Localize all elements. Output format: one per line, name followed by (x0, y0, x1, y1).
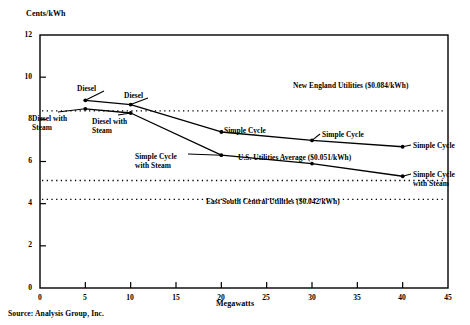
y-tick-label-0: 0 (12, 283, 32, 292)
point-label-sc-steam-40-l2: with Steam (413, 179, 449, 188)
annotation-leader (221, 130, 222, 132)
point-label-simple-cycle-40: Simple Cycle (413, 141, 455, 150)
point-label-diesel-steam-5-l2: Steam (32, 123, 52, 132)
reference-label-new-england: New England Utilities ($0.084/kWh) (293, 81, 408, 90)
point-label-simple-cycle-30: Simple Cycle (322, 130, 364, 139)
point-label-diesel-steam-5-l1: Diesel with (32, 114, 67, 123)
point-label-sc-steam-20-l1: Simple Cycle (135, 152, 177, 161)
y-tick-label-4: 4 (12, 198, 32, 207)
series-line (85, 109, 402, 176)
point-label-sc-steam-20-l2: with Steam (135, 161, 171, 170)
source-note: Source: Analysis Group, Inc. (8, 309, 104, 318)
y-axis-title: Cents/kWh (26, 9, 66, 18)
y-tick-label-2: 2 (12, 240, 32, 249)
series-line (85, 100, 402, 146)
x-axis-ticks (85, 282, 402, 288)
point-label-simple-cycle-20: Simple Cycle (224, 126, 266, 135)
reference-label-us-average: U.S. Utilities Average ($0.051/kWh) (238, 153, 351, 162)
y-tick-label-12: 12 (12, 30, 32, 39)
reference-label-east-south-central: East South Central Utilities ($0.042/kWh… (206, 197, 340, 206)
y-tick-label-8: 8 (12, 114, 32, 123)
annotation-leader (188, 154, 221, 155)
y-tick-label-10: 10 (12, 72, 32, 81)
annotation-leader (118, 113, 131, 115)
point-label-sc-steam-40-l1: Simple Cycle (413, 170, 455, 179)
annotation-leader (312, 134, 320, 140)
x-axis-title: Megawatts (0, 299, 470, 308)
y-axis-ticks (40, 77, 46, 246)
chart-plot-area (0, 0, 470, 325)
point-label-diesel-10: Diesel (124, 91, 143, 100)
series-point (310, 162, 314, 166)
point-label-diesel-steam-10-l1: Diesel with (92, 117, 127, 126)
point-label-diesel-steam-10-l2: Steam (92, 126, 112, 135)
y-tick-label-6: 6 (12, 156, 32, 165)
chart-figure: Cents/kWh 12 10 8 6 4 2 0 0 5 10 15 20 2… (0, 0, 470, 325)
point-label-diesel-5: Diesel (77, 84, 96, 93)
